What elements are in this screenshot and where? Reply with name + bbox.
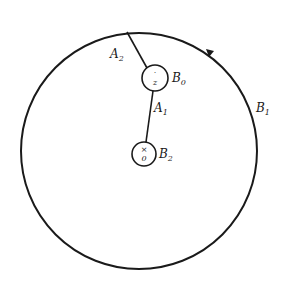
contour-diagram: · z × 0 A2 B0 A1 B2 B1 (0, 0, 286, 288)
point-z-mark: · (154, 68, 157, 77)
label-a2: A2 (109, 47, 124, 63)
label-b2: B2 (158, 147, 173, 163)
point-0-label: 0 (141, 154, 146, 163)
label-b0: B0 (171, 71, 186, 87)
point-z-label: z (152, 78, 158, 87)
segment-a1 (146, 91, 153, 142)
outer-circle-b1 (21, 33, 257, 269)
label-a1: A1 (153, 101, 168, 117)
segment-a2 (127, 32, 147, 68)
label-b1: B1 (255, 101, 270, 117)
point-0-mark: × (141, 145, 148, 154)
